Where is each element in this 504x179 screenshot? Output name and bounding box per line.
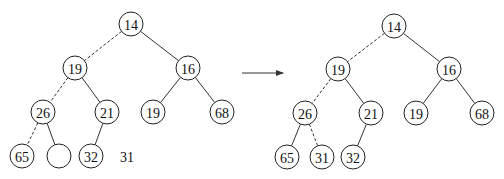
heap-node: 14 [382,14,406,38]
node-value: 14 [124,18,138,33]
heap-node: 31 [310,145,334,169]
tree-edge-solid [82,78,100,103]
heap-node: 68 [210,100,234,124]
heap-node: 16 [437,57,461,81]
node-value: 31 [315,151,329,166]
heap-node: 19 [141,100,165,124]
tree-edge-solid [95,123,103,144]
node-value: 26 [36,106,50,121]
heap-node: 32 [79,144,103,168]
tree-edge-solid [456,79,475,104]
tree-edge-solid [345,79,364,104]
heap-node: 65 [275,145,299,169]
node-value: 19 [331,63,345,78]
heap-node: 26 [293,101,317,125]
node-value: 32 [346,151,360,166]
node-value: 16 [442,63,456,78]
heap-node: 14 [119,12,143,36]
heap-insertion-diagram: 14191626211968653231 1419162621196865313… [0,0,504,179]
node-value: 65 [15,150,29,165]
tree-edge-dashed [27,123,38,145]
tree-edge-solid [195,77,214,102]
heap-node: 68 [470,101,494,125]
heap-node: 16 [176,56,200,80]
node-value: 14 [387,20,401,35]
heap-after-tree: 14191626211968653132 [275,14,494,169]
tree-edge-dashed [309,124,317,146]
node-value: 65 [280,151,294,166]
heap-before-tree: 14191626211968653231 [10,12,234,168]
node-value: 26 [298,107,312,122]
node-value: 19 [409,107,423,122]
heap-node: 21 [95,100,119,124]
heap-node: 32 [341,145,365,169]
tree-edge-solid [47,123,55,144]
tree-edge-solid [358,124,367,146]
node-circle [47,144,71,168]
heap-node: 19 [326,57,350,81]
node-value: 68 [215,106,229,121]
tree-edge-solid [140,31,178,60]
heap-node: 19 [63,56,87,80]
node-value: 16 [181,62,195,77]
heap-node: 26 [31,100,55,124]
heap-node: 21 [359,101,383,125]
heap-node: 19 [404,101,428,125]
heap-node: 65 [10,144,34,168]
tree-edge-dashed [84,31,121,60]
pending-insert-value: 31 [120,150,134,165]
node-value: 19 [146,106,160,121]
node-value: 32 [84,150,98,165]
tree-edge-solid [403,33,439,61]
heap-node-empty [47,144,71,168]
tree-edge-dashed [348,33,385,61]
node-value: 21 [364,107,378,122]
node-value: 19 [68,62,82,77]
tree-edge-dashed [312,79,331,104]
tree-edge-dashed [50,78,68,103]
tree-edge-solid [160,77,180,102]
node-value: 21 [100,106,114,121]
tree-edge-solid [292,124,301,146]
node-value: 68 [475,107,489,122]
tree-edge-solid [423,79,442,104]
